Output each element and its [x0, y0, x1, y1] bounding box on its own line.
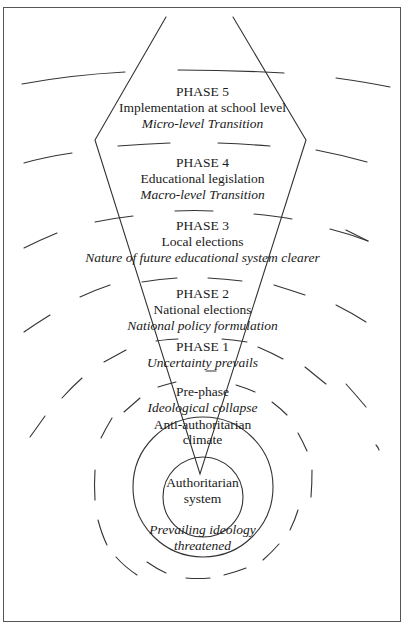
- phase5-title: PHASE 5: [0, 84, 405, 100]
- phase4-desc: Educational legislation: [0, 171, 405, 187]
- climate-label-line1: Anti-authoritarian: [0, 417, 405, 433]
- phase4-transition: Macro-level Transition: [0, 187, 405, 203]
- prephase-title: Pre-phase: [0, 384, 405, 400]
- phase3-note: Nature of future educational system clea…: [0, 250, 405, 266]
- phase1-note: Uncertainty prevails: [0, 355, 405, 371]
- phase1-title: PHASE 1: [0, 339, 405, 355]
- phase4-title: PHASE 4: [0, 155, 405, 171]
- climate-label-line2: climate: [0, 432, 405, 448]
- threat-label-line2: threatened: [0, 538, 405, 554]
- prephase-subtitle: Ideological collapse: [0, 400, 405, 416]
- phase2-note: National policy formulation: [0, 318, 405, 334]
- phase5-transition: Micro-level Transition: [0, 116, 405, 132]
- phase2-desc: National elections: [0, 302, 405, 318]
- phase3-desc: Local elections: [0, 234, 405, 250]
- phase3-title: PHASE 3: [0, 218, 405, 234]
- core-label-line1: Authoritarian: [0, 475, 405, 491]
- core-label-line2: system: [0, 491, 405, 507]
- threat-label-line1: Prevailing ideology: [0, 522, 405, 538]
- phase5-desc: Implementation at school level: [0, 100, 405, 116]
- phase2-title: PHASE 2: [0, 286, 405, 302]
